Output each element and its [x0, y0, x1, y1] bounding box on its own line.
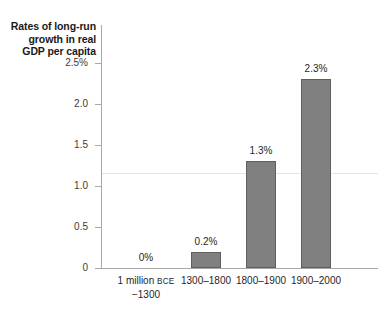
chart-title: Rates of long-run growth in real GDP per… — [8, 20, 96, 58]
bar-value-label: 0.2% — [171, 237, 241, 247]
bar-1300-1800[interactable] — [191, 252, 221, 268]
y-tick-mark-1.5 — [95, 145, 101, 146]
x-category-label-4: 1900–2000 — [276, 275, 356, 288]
y-tick-label-1.5: 1.5 — [28, 140, 88, 150]
y-tick-label-1.0: 1.0 — [28, 181, 88, 191]
y-tick-label-2.0: 2.0 — [28, 99, 88, 109]
x-label-1-text: 1 million — [118, 275, 157, 286]
y-tick-mark-2.5 — [95, 63, 101, 64]
x-category-label-4-line1: 1900–2000 — [291, 275, 341, 286]
y-axis-line — [101, 25, 102, 268]
y-tick-mark-0.5 — [95, 227, 101, 228]
gridline-artifact — [101, 173, 378, 174]
chart-title-line-2: growth in real — [8, 33, 96, 46]
bar-1800-1900[interactable] — [246, 161, 276, 268]
bar-value-label: 1.3% — [226, 146, 296, 156]
y-tick-label-0: 0 — [28, 263, 88, 273]
bar-value-label: 2.3% — [281, 64, 351, 74]
chart-title-line-3: GDP per capita — [8, 45, 96, 58]
y-tick-label-0.5: 0.5 — [28, 222, 88, 232]
x-axis-line — [101, 268, 378, 269]
chart-figure: Rates of long-run growth in real GDP per… — [0, 0, 390, 310]
bar-1900-2000[interactable] — [301, 79, 331, 268]
bar-value-label: 0% — [111, 253, 181, 263]
y-tick-mark-2.0 — [95, 104, 101, 105]
y-tick-mark-1.0 — [95, 186, 101, 187]
chart-title-line-1: Rates of long-run — [8, 20, 96, 33]
y-tick-label-2.5: 2.5% — [28, 58, 88, 68]
y-tick-mark-0 — [95, 268, 101, 269]
x-category-label-1-line2: −1300 — [96, 289, 196, 302]
